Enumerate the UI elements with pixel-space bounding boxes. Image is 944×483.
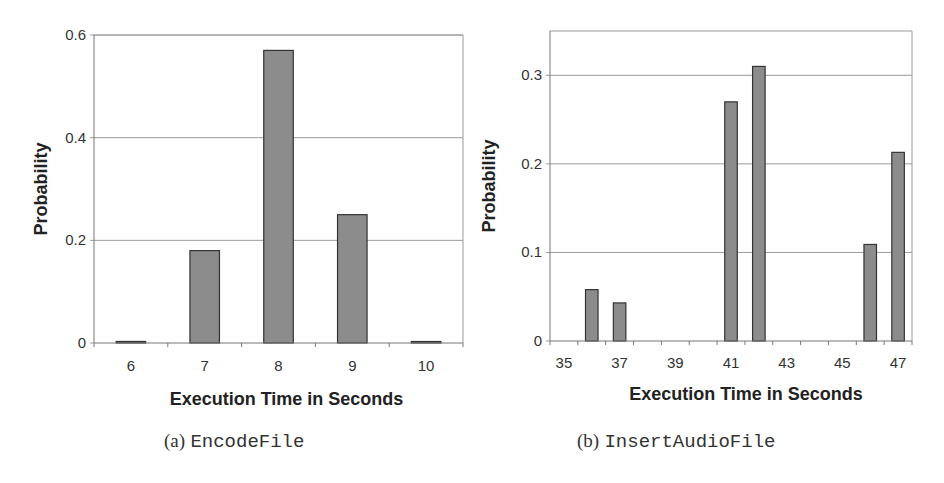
y-tick-label: 0.1 [521, 243, 542, 260]
caption-b: (b) InsertAudioFile [577, 430, 775, 453]
bar [864, 244, 877, 341]
x-tick-label: 47 [890, 354, 907, 371]
chart-a-panel: 00.20.40.6678910Execution Time in Second… [0, 0, 470, 420]
bar [264, 50, 294, 343]
caption-a-letter: (a) [164, 430, 185, 451]
chart-b-panel: 00.10.20.335373941434547Execution Time i… [470, 0, 944, 420]
y-axis-title: Probability [479, 139, 499, 232]
x-axis-title: Execution Time in Seconds [170, 389, 404, 409]
x-axis-title: Execution Time in Seconds [629, 384, 863, 404]
x-tick-label: 8 [274, 357, 282, 374]
x-tick-label: 37 [611, 354, 628, 371]
y-tick-label: 0.6 [65, 26, 86, 43]
chart-b-insertaudiofile: 00.10.20.335373941434547Execution Time i… [470, 0, 944, 420]
x-tick-label: 41 [723, 354, 740, 371]
caption-a: (a) EncodeFile [164, 430, 304, 453]
y-tick-label: 0 [78, 334, 86, 351]
y-tick-label: 0.3 [521, 66, 542, 83]
y-tick-label: 0.2 [65, 231, 86, 248]
x-tick-label: 39 [667, 354, 684, 371]
bar [753, 66, 766, 341]
x-tick-label: 9 [348, 357, 356, 374]
x-tick-label: 6 [127, 357, 135, 374]
caption-b-name: InsertAudioFile [604, 431, 775, 453]
bar [586, 290, 599, 341]
y-tick-label: 0 [534, 332, 542, 349]
chart-a-encodefile: 00.20.40.6678910Execution Time in Second… [0, 0, 470, 420]
x-tick-label: 45 [834, 354, 851, 371]
bar [725, 102, 738, 341]
bar [190, 251, 220, 343]
x-tick-label: 35 [556, 354, 573, 371]
y-axis-title: Probability [31, 142, 51, 235]
bar [892, 152, 905, 341]
caption-a-name: EncodeFile [190, 431, 304, 453]
x-tick-label: 43 [778, 354, 795, 371]
bar [613, 303, 626, 341]
bar [338, 215, 368, 343]
x-tick-label: 10 [418, 357, 435, 374]
x-tick-label: 7 [201, 357, 209, 374]
y-tick-label: 0.4 [65, 129, 86, 146]
caption-b-letter: (b) [577, 430, 599, 451]
y-tick-label: 0.2 [521, 155, 542, 172]
